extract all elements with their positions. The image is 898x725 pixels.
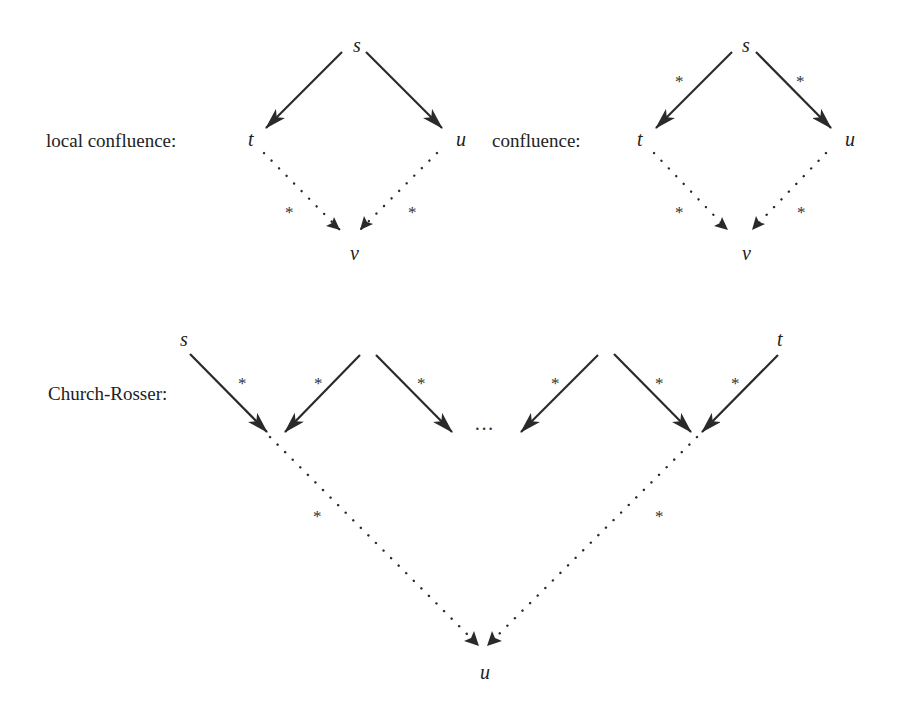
node-u: u <box>480 661 490 683</box>
arrowhead-icon <box>360 216 373 230</box>
confluence-title: confluence: <box>492 130 581 151</box>
church-rosser-diagram: Church-Rosser: s t u ··· * * * * * * * * <box>48 328 783 683</box>
star-label: * <box>655 374 664 393</box>
star-label: * <box>238 374 247 393</box>
edge-t-join2 <box>702 355 778 432</box>
node-u: u <box>845 128 855 150</box>
star-label: * <box>675 72 684 91</box>
edge-t-v <box>264 153 340 230</box>
star-label: * <box>417 374 426 393</box>
edge-peak2-ellipsis <box>521 355 598 432</box>
star-label: * <box>655 507 664 526</box>
edge-s-u <box>756 52 831 128</box>
node-s: s <box>742 34 750 56</box>
local-confluence-title: local confluence: <box>46 130 176 151</box>
edge-peak1-ellipsis <box>376 355 452 432</box>
node-t: t <box>777 328 783 350</box>
arrowhead-icon <box>752 216 765 230</box>
edge-s-join1 <box>190 354 267 432</box>
star-label: * <box>285 203 294 222</box>
edge-t-v <box>654 153 728 230</box>
edge-peak1-join1 <box>285 355 360 432</box>
edge-peak2-join2 <box>614 354 691 432</box>
star-label: * <box>551 374 560 393</box>
edge-s-t <box>266 52 342 128</box>
confluence-diagram: confluence: s t u v * * * * <box>492 34 855 264</box>
edge-join2-u <box>488 437 697 645</box>
edge-s-u <box>366 52 442 128</box>
star-label: * <box>797 203 806 222</box>
edge-join1-u <box>270 437 478 645</box>
star-label: * <box>408 203 417 222</box>
star-label: * <box>796 72 805 91</box>
node-t: t <box>637 128 643 150</box>
ellipsis: ··· <box>474 418 494 440</box>
node-u: u <box>456 128 466 150</box>
node-s: s <box>353 34 361 56</box>
arrowhead-icon <box>714 217 728 230</box>
node-v: v <box>350 242 359 264</box>
church-rosser-title: Church-Rosser: <box>48 383 167 404</box>
star-label: * <box>313 507 322 526</box>
arrowhead-icon <box>326 217 340 230</box>
rewriting-properties-diagram: local confluence: s t u v * * confluence… <box>0 0 898 725</box>
node-t: t <box>248 128 254 150</box>
local-confluence-diagram: local confluence: s t u v * * <box>46 34 466 264</box>
node-v: v <box>742 242 751 264</box>
star-label: * <box>675 203 684 222</box>
node-s: s <box>180 328 188 350</box>
star-label: * <box>314 374 323 393</box>
edge-u-v <box>360 153 437 230</box>
edge-s-t <box>656 52 732 128</box>
edge-u-v <box>752 153 826 230</box>
star-label: * <box>731 374 740 393</box>
